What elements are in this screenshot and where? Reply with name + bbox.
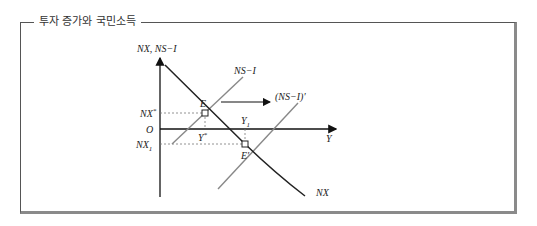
y-axis-label: NX, NS−I (136, 43, 177, 54)
point-e-prime-marker (242, 141, 248, 147)
ns-i-label: NS−I (233, 65, 256, 76)
y-star-label: Y* (198, 131, 208, 143)
origin-label: O (146, 124, 153, 135)
point-e-marker (202, 110, 208, 116)
x-axis-label: Y (326, 133, 333, 144)
ns-i-prime-curve (218, 103, 298, 189)
ns-i-prime-label: (NS−I)′ (275, 91, 306, 103)
nx-label: NX (315, 187, 330, 198)
point-e-label: E (199, 98, 206, 109)
y-one-label: Y1 (241, 115, 250, 129)
nx-star-label: NX* (139, 107, 157, 119)
point-e-prime-label: E′ (240, 150, 250, 161)
diagram: NX, NS−I Y O NS−I (NS−I)′ NX E E′ NX* NX… (0, 0, 537, 226)
nx-one-label: NX1 (135, 139, 152, 153)
